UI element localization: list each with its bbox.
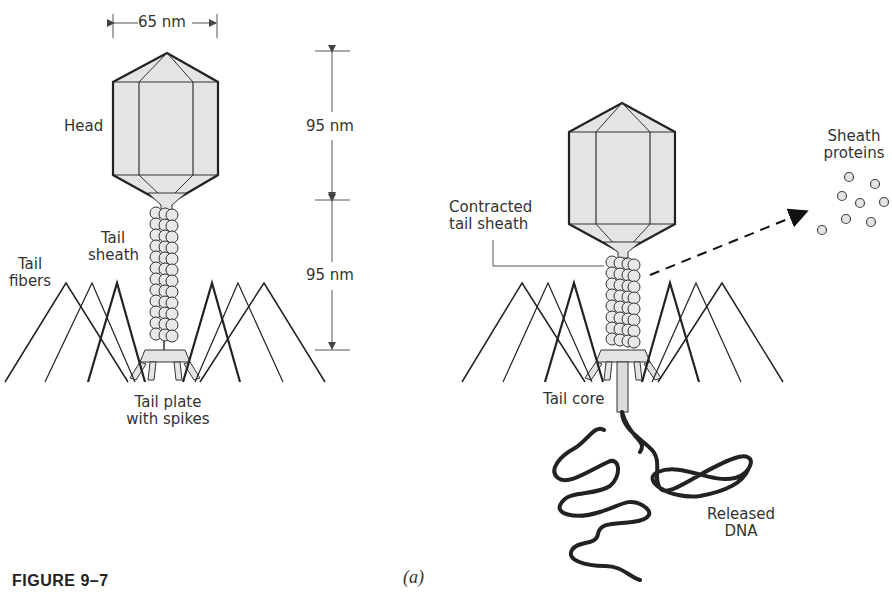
tail-fibers-label-line1: Tail bbox=[6, 256, 54, 273]
head-label: Head bbox=[64, 118, 103, 135]
contracted-head bbox=[569, 103, 675, 258]
tail-height-label: 95 nm bbox=[306, 267, 354, 284]
contracted-tail-sheath bbox=[606, 256, 640, 348]
contracted-sheath-label-line1: Contracted bbox=[449, 199, 532, 216]
width-dimension-label: 65 nm bbox=[138, 14, 186, 31]
contracted-sheath-label-line2: tail sheath bbox=[449, 216, 532, 233]
tail-fibers-label: Tail fibers bbox=[6, 256, 54, 290]
released-dna bbox=[554, 412, 751, 580]
contracted-sheath-label: Contracted tail sheath bbox=[449, 199, 532, 233]
figure-caption: FIGURE 9–7 bbox=[12, 572, 109, 590]
released-dna-label-line1: Released bbox=[705, 506, 777, 523]
height-dimension bbox=[315, 51, 350, 350]
tail-sheath-label: Tail sheath bbox=[88, 230, 138, 264]
tail-plate-label: Tail plate with spikes bbox=[118, 394, 218, 428]
tail-plate-label-line2: with spikes bbox=[118, 411, 218, 428]
sheath-proteins-label-line2: proteins bbox=[818, 145, 890, 162]
tail-fibers-label-line2: fibers bbox=[6, 273, 54, 290]
contracted-sheath-leader bbox=[493, 240, 604, 266]
tail-sheath bbox=[150, 207, 178, 342]
head-height-label: 95 nm bbox=[306, 118, 354, 135]
tail-core bbox=[617, 362, 628, 412]
released-dna-label: Released DNA bbox=[705, 506, 777, 540]
panel-label: (a) bbox=[403, 567, 424, 588]
sheath-proteins-label-line1: Sheath bbox=[818, 128, 890, 145]
head bbox=[113, 53, 218, 210]
tail-core-label: Tail core bbox=[543, 391, 604, 408]
left-phage bbox=[5, 14, 350, 382]
tail-sheath-label-line1: Tail bbox=[88, 230, 138, 247]
released-dna-label-line2: DNA bbox=[705, 523, 777, 540]
right-phage bbox=[462, 103, 889, 580]
tail-sheath-label-line2: sheath bbox=[88, 247, 138, 264]
tail-plate-label-line1: Tail plate bbox=[118, 394, 218, 411]
sheath-proteins-label: Sheath proteins bbox=[818, 128, 890, 162]
sheath-proteins bbox=[818, 173, 889, 235]
